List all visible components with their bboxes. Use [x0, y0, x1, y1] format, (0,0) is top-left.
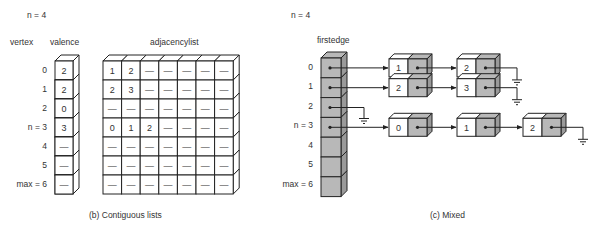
- adjacency-value: —: [201, 85, 210, 95]
- adjacency-value: 1: [128, 123, 133, 133]
- adjacency-value: —: [201, 180, 210, 190]
- adjacency-value: —: [126, 104, 135, 114]
- node-value: 1: [396, 63, 401, 73]
- adjacency-value: —: [164, 85, 173, 95]
- firstedge-cell: [321, 137, 341, 157]
- adjacency-value: 3: [128, 85, 133, 95]
- adjacency-value: —: [219, 123, 228, 133]
- firstedge-column: [321, 52, 347, 197]
- valence-value: 2: [61, 85, 66, 95]
- adjacency-value: —: [126, 142, 135, 152]
- valence-value: 0: [61, 104, 66, 114]
- adjacency-value: —: [164, 142, 173, 152]
- adjacency-value: —: [108, 180, 117, 190]
- valence-value: —: [60, 142, 69, 152]
- adjacency-value: —: [164, 123, 173, 133]
- null-ground-icon: [512, 80, 522, 85]
- valence-column: 2203———: [55, 55, 79, 194]
- adjacency-value: 2: [128, 66, 133, 76]
- node-value: 0: [396, 123, 401, 133]
- adjacency-value: 1: [110, 66, 115, 76]
- list-node: 3: [457, 74, 500, 97]
- valence-value: —: [60, 180, 69, 190]
- adjacency-value: —: [164, 161, 173, 171]
- adjacency-value: 2: [110, 85, 115, 95]
- adjacency-value: —: [145, 161, 154, 171]
- list-node: 1: [457, 113, 500, 136]
- node-value: 2: [464, 63, 469, 73]
- null-ground-icon: [359, 119, 369, 124]
- firstedge-cell: [321, 177, 341, 197]
- adjacency-value: —: [164, 104, 173, 114]
- adjacency-value: —: [201, 104, 210, 114]
- adjacency-value: —: [108, 104, 117, 114]
- adjacency-value: —: [145, 85, 154, 95]
- adjacency-value: —: [219, 104, 228, 114]
- adjacency-value: —: [201, 66, 210, 76]
- adjacency-value: —: [182, 66, 191, 76]
- null-ground-icon: [512, 100, 522, 105]
- adjacency-value: —: [182, 142, 191, 152]
- adjacency-value: —: [219, 85, 228, 95]
- adjacency-value: —: [145, 66, 154, 76]
- node-value: 2: [530, 123, 535, 133]
- adjacency-value: —: [219, 66, 228, 76]
- adjacency-value: —: [126, 180, 135, 190]
- node-value: 1: [464, 123, 469, 133]
- adjacency-value: —: [182, 123, 191, 133]
- adjacency-value: —: [182, 104, 191, 114]
- adjacency-value: —: [201, 123, 210, 133]
- diagram-canvas: 2203——— 12—————23————————————012————————…: [0, 0, 603, 228]
- adjacency-grid: 12—————23————————————012————————————————…: [103, 55, 239, 194]
- adjacency-value: —: [145, 104, 154, 114]
- adjacency-value: —: [219, 142, 228, 152]
- adjacency-value: —: [219, 161, 228, 171]
- adjacency-value: 2: [147, 123, 152, 133]
- firstedge-cell: [321, 157, 341, 177]
- adjacency-value: —: [164, 180, 173, 190]
- valence-value: —: [60, 161, 69, 171]
- adjacency-value: —: [182, 180, 191, 190]
- linked-lists: 1223012: [328, 54, 588, 144]
- node-value: 2: [396, 83, 401, 93]
- adjacency-value: —: [201, 161, 210, 171]
- adjacency-value: —: [219, 180, 228, 190]
- list-node: 2: [389, 74, 432, 97]
- valence-value: 3: [61, 123, 66, 133]
- adjacency-value: —: [126, 161, 135, 171]
- adjacency-value: —: [182, 161, 191, 171]
- adjacency-value: —: [182, 85, 191, 95]
- adjacency-value: —: [108, 161, 117, 171]
- adjacency-value: —: [145, 142, 154, 152]
- adjacency-value: —: [145, 180, 154, 190]
- node-value: 3: [464, 83, 469, 93]
- adjacency-value: —: [201, 142, 210, 152]
- null-ground-icon: [578, 139, 588, 144]
- adjacency-value: —: [108, 142, 117, 152]
- valence-value: 2: [61, 66, 66, 76]
- adjacency-value: 0: [110, 123, 115, 133]
- list-node: 2: [523, 113, 566, 136]
- list-node: 0: [389, 113, 432, 136]
- valence-cell: [55, 55, 79, 80]
- adjacency-value: —: [164, 66, 173, 76]
